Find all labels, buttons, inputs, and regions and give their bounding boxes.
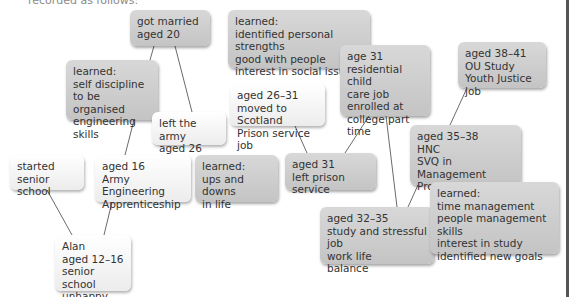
page-edge-rule bbox=[566, 0, 569, 297]
box-aged26-31: aged 26–31 moved to Scotland Prison serv… bbox=[230, 84, 325, 126]
box-left-army: left the army aged 26 bbox=[152, 112, 226, 145]
box-age31-residential: age 31 residential child care job enroll… bbox=[340, 45, 430, 116]
box-learned-ups: learned: ups and downs in life bbox=[195, 155, 278, 202]
box-aged31-left-prison: aged 31 left prison service bbox=[285, 153, 376, 190]
box-learned-discipline: learned: self discipline to be organised… bbox=[66, 60, 158, 120]
connector-age31-aged32 bbox=[386, 116, 397, 207]
connector-married-leftarmy bbox=[175, 46, 192, 112]
box-started-senior: started senior school bbox=[10, 155, 84, 190]
connector-alan-started bbox=[47, 190, 72, 235]
connector-discipline-married bbox=[150, 46, 154, 60]
box-alan: Alan aged 12–16 senior school unhappy bbox=[55, 235, 131, 291]
box-aged35-38: aged 35–38 HNC SVQ in Management Promoti… bbox=[410, 125, 521, 185]
box-aged16: aged 16 Army Engineering Apprenticeship bbox=[95, 155, 191, 202]
box-got-married: got married aged 20 bbox=[130, 10, 210, 46]
box-aged32-35: aged 32–35 study and stressful job work … bbox=[320, 207, 434, 264]
box-learned-time: learned: time management people manageme… bbox=[430, 182, 559, 254]
box-aged38-41: aged 38–41 OU Study Youth Justice job bbox=[458, 42, 546, 88]
